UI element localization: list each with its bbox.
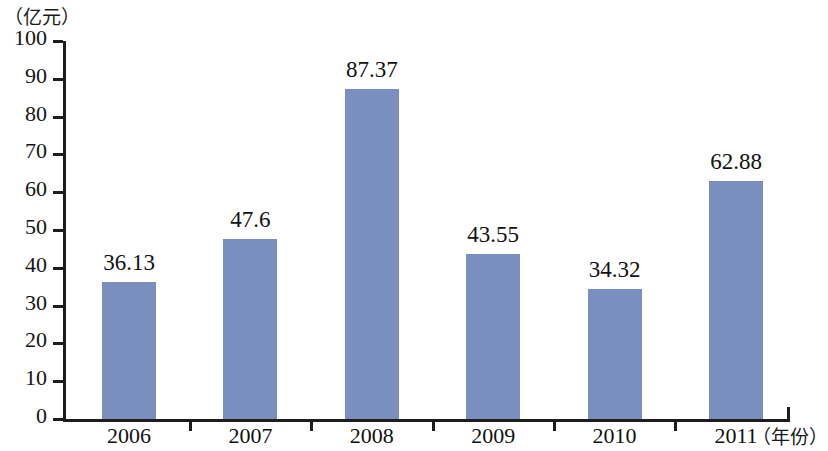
y-axis-tick-label: 90	[0, 65, 47, 87]
bar-value-label: 34.32	[565, 258, 665, 281]
bar	[588, 289, 642, 419]
bar-value-label: 62.88	[686, 150, 786, 173]
bar	[102, 282, 156, 419]
x-axis-category-label: 2007	[200, 425, 300, 447]
y-axis-tick-label: 30	[0, 292, 47, 314]
y-axis-tick: 100	[53, 40, 63, 43]
x-axis-tick	[432, 419, 435, 431]
y-axis-tick: 90	[53, 78, 63, 81]
y-axis-tick: 70	[53, 153, 63, 156]
x-axis-unit-caption: （年份）	[752, 427, 828, 447]
y-axis-tick: 60	[53, 191, 63, 194]
y-axis-tick: 0	[53, 418, 63, 421]
x-axis-category-label: 2006	[79, 425, 179, 447]
bar-value-label: 36.13	[79, 251, 179, 274]
y-axis-tick: 20	[53, 342, 63, 345]
bar-chart: （亿元） 0102030405060708090100 36.1347.687.…	[0, 0, 828, 451]
y-axis-tick-label: 60	[0, 178, 47, 200]
y-axis-tick-label: 50	[0, 216, 47, 238]
x-axis-category-label: 2010	[565, 425, 665, 447]
bar-value-label: 43.55	[443, 223, 543, 246]
y-axis-tick: 40	[53, 267, 63, 270]
x-axis-tick	[189, 419, 192, 431]
x-axis-category-label: 2008	[322, 425, 422, 447]
y-axis-tick: 80	[53, 116, 63, 119]
y-axis-tick-label: 70	[0, 140, 47, 162]
y-axis-tick-label: 100	[0, 27, 47, 49]
x-axis-line	[63, 419, 790, 422]
x-axis-tick	[310, 419, 313, 431]
y-axis-tick-label: 20	[0, 329, 47, 351]
y-axis-tick: 50	[53, 229, 63, 232]
bar	[345, 89, 399, 419]
x-axis-end-cap	[787, 407, 790, 422]
y-axis-tick: 10	[53, 380, 63, 383]
y-axis-line	[63, 41, 66, 420]
y-axis-tick-label: 40	[0, 254, 47, 276]
bar	[223, 239, 277, 419]
bar	[709, 181, 763, 419]
y-axis-tick-label: 10	[0, 367, 47, 389]
plot-area: 0102030405060708090100 36.1347.687.3743.…	[63, 41, 790, 419]
y-axis-tick-label: 80	[0, 103, 47, 125]
y-axis-tick: 30	[53, 305, 63, 308]
bar	[466, 254, 520, 419]
y-axis-tick-label: 0	[0, 405, 47, 427]
bar-value-label: 87.37	[322, 58, 422, 81]
x-axis-category-label: 2009	[443, 425, 543, 447]
x-axis-tick	[674, 419, 677, 431]
bar-value-label: 47.6	[200, 208, 300, 231]
x-axis-tick	[553, 419, 556, 431]
